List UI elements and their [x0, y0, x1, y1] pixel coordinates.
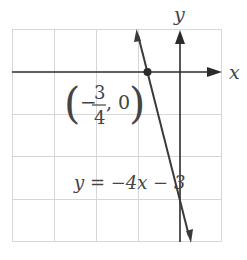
fraction-denominator: 4 — [94, 107, 105, 128]
x-axis — [12, 67, 222, 77]
y-axis-label: y — [173, 3, 185, 25]
y-axis — [175, 30, 185, 242]
coordinate-plane: x y ( − 3 4 , 0 ) y = −4x − 3 — [0, 0, 247, 260]
grid — [12, 29, 222, 242]
line-arrow-up-icon — [134, 29, 141, 42]
graph-figure: x y ( − 3 4 , 0 ) y = −4x − 3 — [0, 0, 247, 260]
point-rest: , 0 — [106, 91, 130, 113]
paren-close: ) — [129, 79, 145, 128]
line-arrow-down-icon — [186, 229, 193, 243]
line-y-eq-neg4x-minus3 — [134, 29, 193, 243]
paren-open: ( — [64, 79, 80, 128]
x-axis-label: x — [229, 61, 240, 83]
fraction-numerator: 3 — [94, 82, 105, 103]
point-label: ( − 3 4 , 0 ) — [64, 79, 145, 128]
equation-label: y = −4x − 3 — [73, 172, 185, 193]
y-axis-arrow-icon — [175, 30, 185, 44]
x-axis-arrow-icon — [207, 67, 222, 77]
x-intercept-point — [144, 68, 152, 76]
